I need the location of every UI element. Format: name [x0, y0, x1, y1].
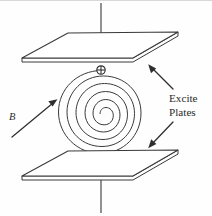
bottom-plate	[22, 150, 178, 180]
callout-arrow-top	[148, 64, 173, 89]
callout-arrow-top-shaft	[152, 68, 173, 89]
callout-label-line1: Excite	[169, 92, 198, 104]
callout-label-line2: Plates	[169, 106, 196, 118]
bottom-plate-face	[22, 150, 178, 176]
figure-container: B Excite Plates	[0, 0, 212, 216]
coil-terminal-marker	[97, 66, 105, 74]
callout-arrow-bottom-shaft	[152, 122, 173, 144]
top-plate	[22, 32, 178, 62]
excite-plates-coil-diagram: B Excite Plates	[0, 0, 212, 216]
field-arrow	[12, 99, 58, 137]
top-plate-face	[22, 32, 178, 58]
spiral-coil	[59, 71, 142, 154]
field-arrow-shaft	[12, 103, 53, 137]
field-label-B: B	[9, 111, 16, 122]
callout-arrow-bottom	[148, 122, 173, 148]
